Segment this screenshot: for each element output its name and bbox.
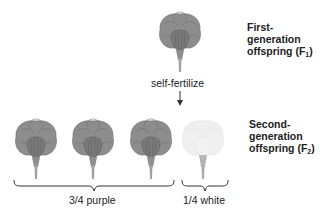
white-fraction-label: 1/4 white bbox=[183, 194, 225, 206]
self-fertilize-label: self-fertilize bbox=[151, 77, 204, 89]
f2-flower-purple-3 bbox=[128, 113, 174, 181]
down-arrow-icon bbox=[175, 91, 185, 107]
purple-fraction-label: 3/4 purple bbox=[69, 194, 116, 206]
f2-flower-white bbox=[180, 113, 226, 181]
f2-flower-purple-1 bbox=[13, 113, 59, 181]
f1-generation-label: First- generation offspring (F1) bbox=[247, 21, 313, 57]
f2-generation-label: Second- generation offspring (F2) bbox=[249, 118, 315, 154]
f1-flower-purple bbox=[157, 6, 203, 74]
f2-flower-purple-2 bbox=[70, 113, 116, 181]
purple-group-brace bbox=[13, 180, 175, 192]
white-group-brace bbox=[181, 180, 229, 192]
